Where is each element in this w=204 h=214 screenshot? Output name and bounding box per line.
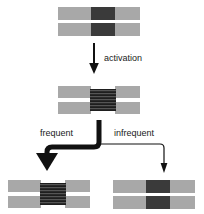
core-block-upper bbox=[146, 180, 170, 193]
bar-gap-left bbox=[58, 98, 91, 102]
core-block-lower bbox=[146, 196, 170, 209]
segment-upper-right bbox=[115, 86, 140, 98]
activated-complex-outcome bbox=[8, 180, 90, 208]
activated-complex-middle bbox=[58, 86, 140, 114]
segment-lower-left bbox=[113, 196, 146, 209]
core-block-lower bbox=[91, 23, 115, 36]
activated-core bbox=[90, 89, 116, 111]
segment-upper-right bbox=[115, 7, 140, 20]
bar-row bbox=[58, 86, 140, 114]
segment-lower-right bbox=[115, 102, 140, 114]
segment-upper-right bbox=[170, 180, 195, 193]
segment-lower-left bbox=[8, 196, 41, 208]
activation-pathway-diagram: activation frequent infrequent bbox=[0, 0, 204, 214]
segment-upper-left bbox=[113, 180, 146, 193]
segment-upper-left bbox=[58, 7, 91, 20]
segment-lower-right bbox=[65, 196, 90, 208]
activation-arrow bbox=[86, 43, 102, 75]
segment-upper-left bbox=[58, 86, 91, 98]
activation-label: activation bbox=[104, 54, 142, 63]
segment-upper-right bbox=[65, 180, 90, 192]
segment-upper-left bbox=[8, 180, 41, 192]
core-block-upper bbox=[91, 7, 115, 20]
bar-row bbox=[113, 180, 195, 209]
bar-gap-right bbox=[65, 192, 90, 196]
inactive-complex-top bbox=[58, 7, 140, 36]
inactive-complex-outcome bbox=[113, 180, 195, 209]
activated-core bbox=[40, 183, 66, 205]
bar-row bbox=[58, 7, 140, 36]
segment-lower-left bbox=[58, 102, 91, 114]
segment-lower-right bbox=[170, 196, 195, 209]
bar-gap bbox=[58, 20, 140, 23]
infrequent-label: infrequent bbox=[114, 129, 154, 138]
bar-row bbox=[8, 180, 90, 208]
bar-gap-right bbox=[115, 98, 140, 102]
segment-lower-right bbox=[115, 23, 140, 36]
bar-gap bbox=[113, 193, 195, 196]
bar-gap-left bbox=[8, 192, 41, 196]
infrequent-branch-arrow bbox=[98, 143, 172, 175]
segment-lower-left bbox=[58, 23, 91, 36]
